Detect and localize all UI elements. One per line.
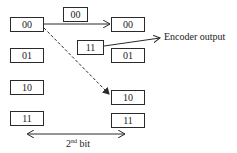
- bit-word: bit: [77, 138, 90, 149]
- left-state-01: 01: [10, 48, 44, 63]
- bit-span-label: 2nd bit: [66, 138, 90, 149]
- transition-output-11: 11: [77, 40, 104, 55]
- encoder-output-arrow: [104, 38, 160, 46]
- encoder-output-label: Encoder output: [164, 31, 225, 42]
- transition-output-00: 00: [63, 7, 88, 22]
- transition-arrow-00-10: [44, 28, 109, 94]
- left-state-00: 00: [10, 17, 44, 32]
- right-state-01: 01: [111, 48, 145, 63]
- right-state-00: 00: [111, 17, 145, 32]
- left-state-10: 10: [10, 80, 44, 95]
- right-state-11: 11: [111, 113, 145, 128]
- right-state-10: 10: [111, 90, 145, 105]
- left-state-11: 11: [10, 111, 44, 126]
